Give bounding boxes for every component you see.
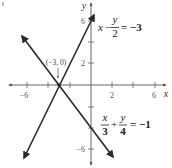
x-axis-label: x [163,88,169,99]
x-tick-label-2: 2 [110,91,114,100]
eq2-numerator-y: y [120,111,126,123]
y-tick-label-neg6: −6 [76,145,85,154]
coordinate-plane-chart: −6 2 6 x 6 2 −6 y (−3, 0) x − y 2 = −3 x… [0,0,172,168]
x-tick-label-6: 6 [152,91,156,100]
line-x-third-plus-y-quarter-eq-neg1 [22,36,113,157]
eq2-denominator-4: 4 [120,125,126,137]
y-tick-label-6: 6 [81,17,85,26]
eq2-numerator-x: x [102,111,108,123]
intersection-label: (−3, 0) [46,58,67,67]
eq1-minus: − [105,21,111,33]
eq1-rhs: = −3 [121,21,142,33]
y-axis-label: y [81,0,87,11]
equation-label-1: x − y 2 = −3 [97,13,142,39]
y-tick-label-2: 2 [81,59,85,68]
eq1-numerator: y [112,13,118,25]
eq1-denominator: 2 [112,27,118,39]
intersection-point [57,83,61,87]
eq2-plus: + [111,118,117,130]
equation-label-2: x 3 + y 4 = −1 [101,111,151,137]
eq2-rhs: = −1 [130,118,151,130]
x-tick-label-neg6: −6 [20,91,29,100]
eq2-denominator-3: 3 [102,125,108,137]
eq1-lhs-x: x [97,21,103,33]
